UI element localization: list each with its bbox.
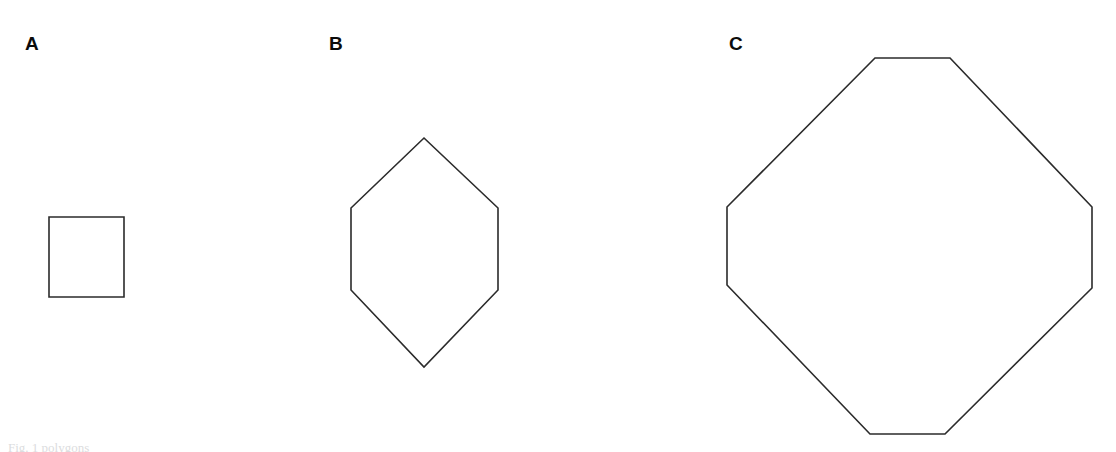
figure-container: of A B C Fig. 1 polygons — [0, 0, 1116, 452]
hexagon-shape — [351, 138, 498, 367]
octagon-shape — [727, 58, 1092, 434]
shapes-canvas — [0, 0, 1116, 452]
square-shape — [49, 217, 124, 297]
